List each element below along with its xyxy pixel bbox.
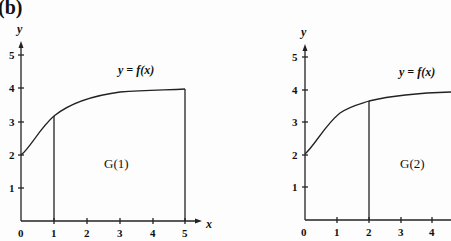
x-axis-arrow-icon (195, 219, 202, 224)
svg-text:1: 1 (9, 182, 15, 194)
figure-canvas: (b) 0 1 2 3 4 5 1 2 3 4 5 y x y = (0, 0, 451, 241)
region-label: G(2) (400, 156, 425, 171)
y-axis-arrow-icon (303, 44, 308, 51)
chart-g1-labels: 0 1 2 3 4 5 1 2 3 4 5 y x y = f(x) G(1) (9, 22, 212, 239)
svg-text:4: 4 (429, 226, 435, 238)
svg-text:2: 2 (366, 226, 372, 238)
svg-text:1: 1 (292, 181, 298, 193)
y-axis-label: y (15, 22, 23, 36)
svg-text:4: 4 (292, 84, 298, 96)
svg-text:3: 3 (9, 116, 15, 128)
svg-text:2: 2 (292, 149, 298, 161)
svg-text:5: 5 (292, 51, 298, 63)
figure-label: (b) (0, 0, 22, 19)
svg-text:0: 0 (18, 227, 24, 239)
chart-g1 (18, 41, 202, 224)
chart-g2-labels: 0 1 2 3 4 1 2 3 4 5 y y = f(x) G(2) (292, 25, 435, 238)
curve-fx (21, 89, 185, 155)
curve-label: y = f(x) (397, 65, 435, 79)
svg-text:1: 1 (334, 226, 340, 238)
svg-text:3: 3 (117, 227, 123, 239)
svg-text:5: 5 (182, 227, 188, 239)
svg-text:2: 2 (9, 149, 15, 161)
svg-text:3: 3 (398, 226, 404, 238)
x-axis-label: x (205, 217, 212, 231)
svg-text:2: 2 (84, 227, 90, 239)
svg-text:1: 1 (51, 227, 57, 239)
y-axis-arrow-icon (19, 41, 24, 48)
y-axis-label: y (299, 25, 307, 39)
svg-text:4: 4 (150, 227, 156, 239)
region-label: G(1) (104, 156, 129, 171)
curve-fx (305, 92, 451, 154)
svg-text:3: 3 (292, 116, 298, 128)
svg-text:0: 0 (301, 226, 307, 238)
curve-label: y = f(x) (116, 63, 154, 77)
svg-text:5: 5 (9, 49, 15, 61)
svg-text:4: 4 (9, 82, 15, 94)
